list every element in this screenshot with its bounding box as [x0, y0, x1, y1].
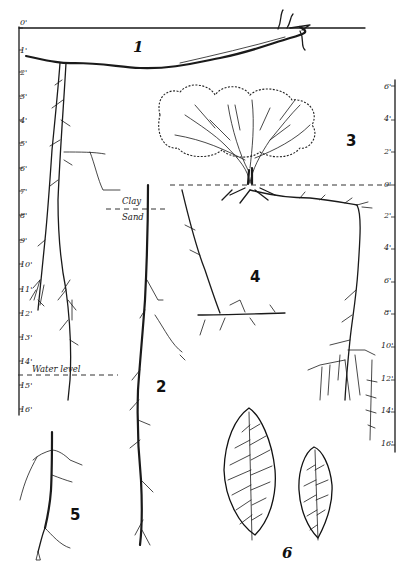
- left-tick-16: 16': [20, 405, 32, 414]
- right-tick-below-14: 14': [381, 406, 393, 415]
- right-tick-below-6: 6': [384, 276, 391, 285]
- large-leaf: [224, 408, 275, 540]
- panel-3-shrub: 3: [159, 85, 357, 184]
- right-tick-above-4: 4': [383, 114, 391, 123]
- panel-3-number: 3: [346, 132, 356, 150]
- right-depth-scale: 6' 4' 2' 0' 2' 4' 6' 8' 10' 12' 14' 16': [381, 80, 395, 452]
- left-tick-8: 8': [20, 211, 27, 220]
- panel-2-taproot: 2: [130, 185, 185, 545]
- left-tick-14: 14': [20, 357, 32, 366]
- left-tick-13: 13': [20, 333, 32, 342]
- left-tick-1: 1': [20, 46, 27, 55]
- deep-roots-panel-1: [30, 63, 120, 400]
- left-tick-12: 12': [20, 309, 32, 318]
- root-system-diagram: 0' 1' 2' 3' 4' 5' 6' 7' 8' 9' 10' 11' 12…: [0, 0, 410, 570]
- panel-4-number: 4: [250, 268, 260, 286]
- left-tick-5: 5': [20, 139, 27, 148]
- left-tick-11: 11': [20, 285, 32, 294]
- right-tick-below-16: 16': [381, 439, 393, 448]
- right-tick-below-2: 2': [383, 211, 391, 220]
- left-tick-9: 9': [20, 236, 27, 245]
- panel-4-lateral-roots: 4: [182, 188, 377, 440]
- panel-5-root-fragment: 5: [20, 432, 82, 560]
- left-tick-6: 6': [20, 164, 27, 173]
- panel-1-number: 1: [133, 38, 143, 56]
- water-level-label: Water level: [32, 364, 81, 374]
- left-tick-4: 4': [19, 116, 27, 125]
- left-tick-10: 10': [20, 260, 32, 269]
- right-tick-below-4: 4': [383, 243, 391, 252]
- panel-6-number: 6: [282, 544, 293, 562]
- left-tick-0: 0': [20, 18, 27, 27]
- sand-label: Sand: [122, 212, 144, 222]
- clay-label: Clay: [122, 196, 141, 206]
- right-tick-below-10: 10': [381, 341, 393, 350]
- panel-6-leaves: 6: [224, 408, 332, 562]
- panel-5-number: 5: [70, 506, 80, 524]
- left-tick-3: 3': [20, 92, 27, 101]
- right-tick-above-6: 6': [384, 82, 391, 91]
- right-tick-below-12: 12': [381, 374, 393, 383]
- right-tick-above-2: 2': [383, 147, 391, 156]
- panel-1-surface-root: 1: [26, 10, 310, 68]
- left-tick-7: 7': [20, 187, 27, 196]
- small-leaf: [299, 447, 332, 540]
- right-tick-below-8: 8': [384, 308, 391, 317]
- left-tick-15: 15': [20, 381, 32, 390]
- panel-2-number: 2: [156, 378, 166, 396]
- left-tick-2: 2': [19, 68, 27, 77]
